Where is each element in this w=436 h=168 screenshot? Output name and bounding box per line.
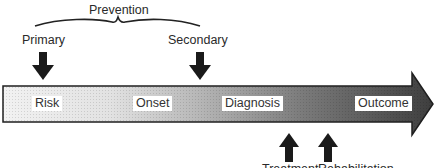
disease-timeline-diagram: Prevention Primary Secondary Risk Onset … bbox=[0, 0, 436, 168]
treatment-up-arrow-icon bbox=[279, 133, 299, 162]
primary-down-arrow-icon bbox=[32, 52, 54, 80]
prevention-label: Prevention bbox=[89, 3, 149, 17]
primary-label: Primary bbox=[22, 33, 65, 47]
stage-risk: Risk bbox=[32, 96, 62, 111]
secondary-label: Secondary bbox=[168, 33, 228, 47]
stage-diagnosis: Diagnosis bbox=[222, 96, 283, 111]
prevention-brace bbox=[35, 17, 200, 26]
stage-outcome: Outcome bbox=[355, 96, 412, 111]
treatment-label: Treatment bbox=[262, 162, 319, 168]
rehabilitation-label: Rehabilitation bbox=[318, 162, 394, 168]
diagram-graphics bbox=[0, 0, 436, 168]
rehabilitation-up-arrow-icon bbox=[318, 133, 338, 162]
secondary-down-arrow-icon bbox=[189, 52, 211, 80]
stage-onset: Onset bbox=[133, 96, 172, 111]
